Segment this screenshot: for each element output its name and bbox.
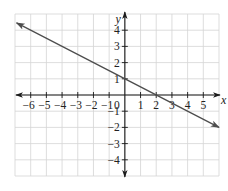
x-tick-label: −4 [54, 99, 66, 111]
coordinate-plane-chart: −6−5−4−3−2−1123454321−1−2−3−40xy [0, 0, 228, 191]
x-tick-label: 3 [169, 99, 175, 111]
y-axis-label: y [115, 12, 122, 26]
y-tick-label: 4 [114, 24, 120, 36]
x-tick-label: 1 [138, 99, 144, 111]
x-tick-label: 4 [185, 99, 191, 111]
x-tick-label: −6 [23, 99, 35, 111]
x-axis-label: x [220, 93, 227, 107]
y-tick-label: −3 [108, 138, 120, 150]
y-tick-label: −2 [108, 121, 120, 133]
x-tick-label: −5 [38, 99, 50, 111]
x-tick-label: −2 [85, 99, 97, 111]
y-tick-label: 2 [114, 57, 120, 69]
y-tick-label: −4 [108, 154, 120, 166]
x-tick-label: 2 [153, 99, 159, 111]
y-tick-label: 3 [114, 40, 120, 52]
x-tick-label: −3 [70, 99, 82, 111]
x-tick-label: 5 [200, 99, 206, 111]
origin-label: 0 [114, 99, 120, 111]
